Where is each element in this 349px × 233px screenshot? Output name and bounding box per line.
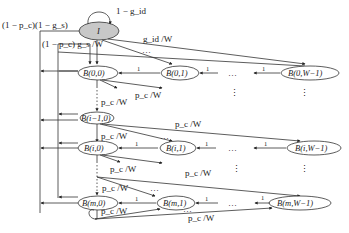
svg-text:1: 1 bbox=[262, 65, 265, 72]
svg-text:…: … bbox=[183, 204, 192, 214]
svg-text:p_c /W: p_c /W bbox=[101, 97, 128, 107]
svg-text:⋮: ⋮ bbox=[300, 164, 309, 174]
svg-text:B(0,1): B(0,1) bbox=[166, 68, 188, 78]
svg-text:B(i−1,0): B(i−1,0) bbox=[81, 113, 111, 123]
svg-text:p_c /W: p_c /W bbox=[135, 90, 162, 100]
svg-text:…: … bbox=[228, 198, 237, 208]
svg-text:p_c /W: p_c /W bbox=[110, 164, 137, 174]
svg-text:1: 1 bbox=[135, 140, 138, 147]
row-stage-i: B(i,0) B(i,1) B(i,W−1) 1 1 … 1 bbox=[78, 140, 341, 155]
svg-text:p_c /W: p_c /W bbox=[102, 183, 129, 193]
svg-text:…: … bbox=[228, 143, 237, 153]
label-top-left-2: (1 − p_c) g_s /W bbox=[42, 39, 104, 49]
idle-state: I bbox=[79, 12, 119, 40]
label-top-left-1: (1 − p_c)(1 − g_s) bbox=[2, 20, 68, 30]
svg-text:1: 1 bbox=[261, 194, 264, 201]
svg-text:…: … bbox=[228, 68, 237, 78]
svg-text:⋮: ⋮ bbox=[230, 88, 239, 98]
label-idle-to-stage0: g_id /W bbox=[143, 34, 173, 44]
svg-text:p_c /W: p_c /W bbox=[175, 119, 202, 129]
svg-text:p_c /W: p_c /W bbox=[101, 131, 128, 141]
svg-text:1: 1 bbox=[206, 65, 209, 72]
svg-text:1: 1 bbox=[264, 140, 267, 147]
svg-text:B(0,0): B(0,0) bbox=[83, 68, 105, 78]
svg-text:⋮: ⋮ bbox=[300, 88, 309, 98]
svg-text:1: 1 bbox=[205, 140, 208, 147]
svg-text:B(i,1): B(i,1) bbox=[166, 143, 186, 153]
svg-text:1: 1 bbox=[137, 65, 140, 72]
svg-text:…: … bbox=[142, 45, 151, 55]
svg-text:1: 1 bbox=[205, 195, 208, 202]
svg-text:B(i,0): B(i,0) bbox=[84, 143, 104, 153]
self-loop-label: 1 − g_id bbox=[116, 6, 147, 16]
svg-text:⋮: ⋮ bbox=[232, 164, 241, 174]
svg-text:…: … bbox=[150, 183, 159, 193]
markov-chain-diagram: I 1 − g_id (1 − p_c)(1 − g_s) (1 − p_c) … bbox=[0, 0, 349, 233]
svg-text:B(m,W−1): B(m,W−1) bbox=[277, 198, 313, 208]
svg-text:B(0,W−1): B(0,W−1) bbox=[288, 68, 322, 78]
svg-text:B(i,W−1): B(i,W−1) bbox=[295, 143, 328, 153]
svg-text:…: … bbox=[160, 131, 169, 141]
svg-text:p_c /W: p_c /W bbox=[185, 168, 212, 178]
svg-text:p_c /W: p_c /W bbox=[188, 213, 215, 223]
svg-text:1: 1 bbox=[135, 195, 138, 202]
row-stage-0: B(0,0) B(0,1) B(0,W−1) 1 1 … 1 bbox=[78, 65, 339, 80]
